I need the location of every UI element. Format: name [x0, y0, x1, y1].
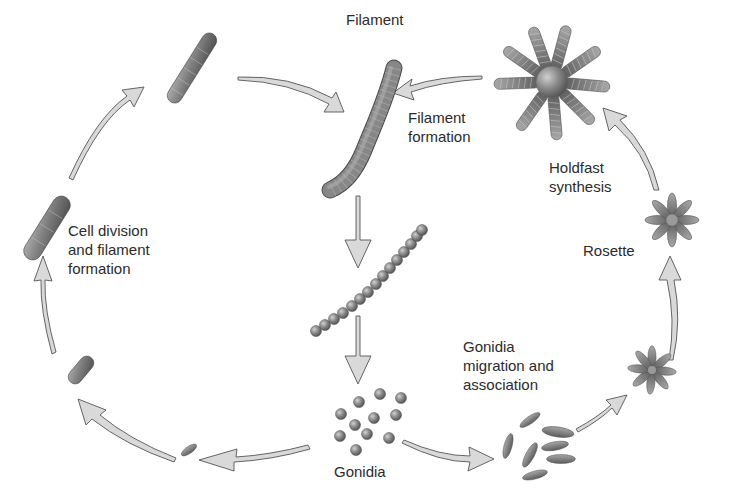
gonidia-icon [335, 389, 407, 456]
label-gonidia-migration: Gonidia migration and association [463, 337, 554, 394]
filament-icon [329, 68, 394, 190]
label-filament-formation: Filament formation [408, 108, 471, 146]
arrow-gonidia-to-single-cell [199, 445, 310, 471]
label-filament: Filament [346, 10, 404, 29]
migrating-gonidia-icon [501, 410, 576, 482]
arrow-small-rosette-to-rosette [659, 256, 681, 360]
life-cycle-diagram: Filament Filament formation Holdfast syn… [0, 0, 730, 503]
rosette-icon [645, 193, 699, 247]
arrow-migration-to-small-rosette [576, 395, 627, 432]
arrow-filament-to-chain [345, 196, 371, 268]
label-holdfast-synthesis: Holdfast synthesis [549, 158, 612, 196]
short-rod-icon [65, 353, 96, 387]
label-rosette: Rosette [583, 241, 635, 260]
arrow-single-cell-to-short-rod [78, 399, 176, 462]
arrow-gonidia-to-migration [402, 440, 494, 471]
arrow-dividing-rod-to-short-filament [69, 87, 144, 180]
arrow-short-to-long-filament [238, 77, 344, 112]
label-gonidia: Gonidia [334, 462, 386, 481]
short-filament-icon [164, 30, 219, 106]
arrow-rosette-to-filament [393, 76, 482, 100]
dividing-rod-icon [20, 193, 73, 264]
arrow-short-rod-to-dividing-rod [34, 256, 56, 354]
small-rosette-icon [627, 346, 676, 395]
arrow-chain-to-gonidia [345, 316, 371, 384]
label-cell-division: Cell division and filament formation [68, 221, 150, 278]
holdfast-rosette-icon [494, 25, 610, 141]
single-cell-icon [180, 442, 199, 458]
